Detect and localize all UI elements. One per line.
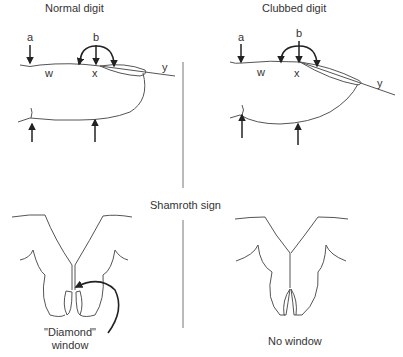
no-window-caption: No window xyxy=(268,335,322,347)
clubbed-digit-drawing xyxy=(230,61,395,124)
marker-w-clubbed: w xyxy=(257,66,265,78)
clubbed-digit-title: Clubbed digit xyxy=(262,2,326,14)
clubbed-digit-arrows xyxy=(241,41,317,145)
diagram-canvas xyxy=(0,0,403,357)
marker-w-normal: w xyxy=(45,67,53,79)
marker-b-clubbed: b xyxy=(296,27,302,39)
marker-x-normal: x xyxy=(92,67,98,79)
marker-a-normal: a xyxy=(27,31,33,43)
shamroth-diamond-drawing xyxy=(12,215,132,317)
diamond-window-caption-line1: "Diamond" xyxy=(40,326,100,338)
marker-x-clubbed: x xyxy=(294,67,300,79)
diamond-window-caption-line2: window xyxy=(40,339,100,351)
normal-digit-title: Normal digit xyxy=(45,2,104,14)
marker-a-clubbed: a xyxy=(238,31,244,43)
marker-y-clubbed: y xyxy=(377,77,383,89)
normal-digit-arrows xyxy=(30,45,114,142)
marker-b-normal: b xyxy=(93,31,99,43)
shamroth-sign-title: Shamroth sign xyxy=(150,199,221,211)
marker-y-normal: y xyxy=(162,61,168,73)
shamroth-no-window-drawing xyxy=(235,217,348,315)
